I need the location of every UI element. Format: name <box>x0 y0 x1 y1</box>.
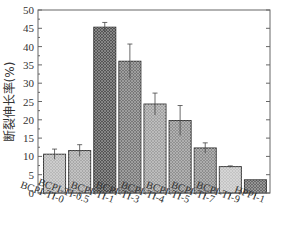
y-tick-label: 35 <box>23 59 35 71</box>
error-bars-group <box>52 22 233 167</box>
y-tick-label: 15 <box>23 132 35 144</box>
y-tick-label: 50 <box>23 4 35 16</box>
y-tick-label: 30 <box>23 77 35 89</box>
bar-pattern <box>119 61 141 193</box>
y-tick-label: 20 <box>23 114 35 126</box>
y-tick-label: 10 <box>23 150 35 162</box>
y-axis-title: 断裂伸长率(%) <box>2 62 17 143</box>
y-tick-label: 5 <box>29 169 35 181</box>
bar-chart: 05101520253035404550 BCPI-TI-0BCPI-TI-0.… <box>0 0 291 230</box>
y-tick-label: 45 <box>23 22 35 34</box>
y-tick-label: 25 <box>23 96 35 108</box>
bar-pattern <box>94 27 116 193</box>
y-tick-label: 40 <box>23 41 35 53</box>
